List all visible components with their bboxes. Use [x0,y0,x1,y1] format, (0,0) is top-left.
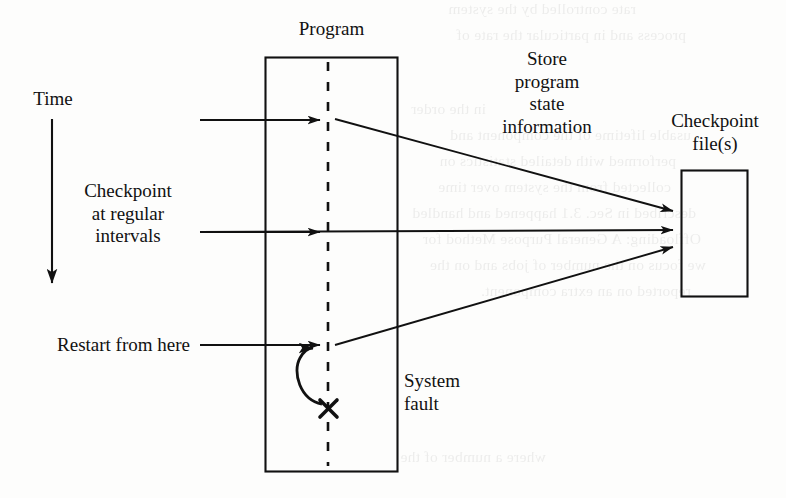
store-state-arrow-2 [200,230,673,232]
checkpoint-files-box [682,171,748,297]
label-store-state: Store program state information [477,48,617,138]
label-restart-from-here: Restart from here [10,334,190,357]
figure-page: rate controlled by the systemprocess and… [0,0,786,498]
label-checkpoint-interval: Checkpoint at regular intervals [58,180,198,248]
restore-state-arrow [335,247,673,345]
label-time: Time [12,88,94,111]
label-system-fault: System fault [404,370,504,415]
rollback-curve-arrow [297,348,322,404]
label-program: Program [265,18,398,41]
label-checkpoint-files: Checkpoint file(s) [645,110,785,155]
checkpoint-restart-diagram: Program Time Checkpoint at regular inter… [0,0,786,498]
